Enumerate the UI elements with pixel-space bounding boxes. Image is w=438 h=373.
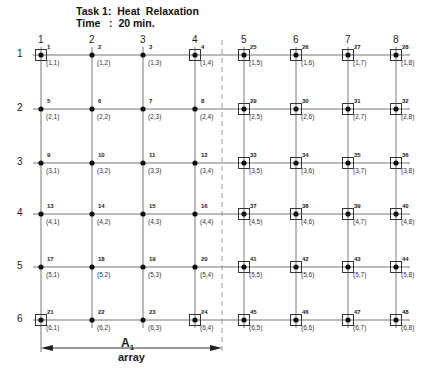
node-coordinate: (6,2)	[97, 324, 110, 331]
node-number: 24	[201, 309, 208, 315]
node-number: 38	[302, 203, 309, 209]
node-coordinate: (3,2)	[97, 167, 110, 174]
node-dot	[393, 160, 398, 165]
row-header: 4	[17, 207, 23, 218]
node-coordinate: (1,8)	[401, 59, 414, 66]
node-dot	[89, 264, 94, 269]
node-coordinate: (6,5)	[249, 324, 262, 331]
column-header: 1	[38, 34, 44, 45]
node-coordinate: (5,5)	[249, 271, 262, 278]
node-number: 29	[250, 98, 257, 104]
node-coordinate: (4,1)	[46, 218, 59, 225]
node-dot	[192, 160, 197, 165]
node-number: 17	[47, 256, 54, 262]
node-dot	[192, 106, 197, 111]
node-number: 39	[354, 203, 361, 209]
node-dot	[241, 211, 246, 216]
node-coordinate: (6,8)	[401, 324, 414, 331]
node-dot	[393, 264, 398, 269]
node-number: 7	[149, 98, 152, 104]
column-header: 3	[140, 34, 146, 45]
node-dot	[345, 52, 350, 57]
node-number: 4	[201, 44, 204, 50]
node-dot	[89, 317, 94, 322]
node-coordinate: (1,5)	[249, 59, 262, 66]
node-number: 45	[250, 309, 257, 315]
node-dot	[89, 211, 94, 216]
node-number: 16	[201, 203, 208, 209]
node-dot	[38, 160, 43, 165]
node-coordinate: (1,2)	[97, 59, 110, 66]
node-dot	[293, 52, 298, 57]
node-coordinate: (5,6)	[301, 271, 314, 278]
node-dot	[89, 52, 94, 57]
node-number: 25	[250, 44, 257, 50]
node-coordinate: (5,2)	[97, 271, 110, 278]
node-number: 1	[47, 44, 50, 50]
node-dot	[140, 317, 145, 322]
node-coordinate: (1,1)	[46, 59, 59, 66]
column-header: 6	[293, 34, 299, 45]
node-dot	[38, 264, 43, 269]
node-dot	[241, 106, 246, 111]
column-header: 8	[393, 34, 399, 45]
node-coordinate: (4,3)	[148, 218, 161, 225]
node-number: 21	[47, 309, 54, 315]
node-number: 3	[149, 44, 152, 50]
node-coordinate: (3,4)	[200, 167, 213, 174]
node-dot	[293, 211, 298, 216]
node-dot	[345, 264, 350, 269]
node-coordinate: (5,4)	[200, 271, 213, 278]
node-dot	[241, 52, 246, 57]
node-number: 26	[302, 44, 309, 50]
node-number: 36	[402, 152, 409, 158]
node-coordinate: (3,7)	[353, 167, 366, 174]
node-coordinate: (3,5)	[249, 167, 262, 174]
node-dot	[38, 317, 43, 322]
node-coordinate: (2,8)	[401, 113, 414, 120]
node-coordinate: (2,5)	[249, 113, 262, 120]
node-number: 6	[98, 98, 101, 104]
node-number: 14	[98, 203, 105, 209]
node-coordinate: (6,3)	[148, 324, 161, 331]
node-coordinate: (5,3)	[148, 271, 161, 278]
column-header: 4	[192, 34, 198, 45]
row-header: 1	[17, 48, 23, 59]
node-dot	[241, 160, 246, 165]
row-header: 2	[17, 102, 23, 113]
node-number: 11	[149, 152, 155, 158]
node-number: 18	[98, 256, 105, 262]
node-dot	[393, 106, 398, 111]
node-number: 30	[302, 98, 309, 104]
node-dot	[140, 52, 145, 57]
node-dot	[345, 160, 350, 165]
node-coordinate: (4,8)	[401, 218, 414, 225]
arrow-right-icon	[210, 345, 222, 351]
column-header: 5	[241, 34, 247, 45]
node-number: 10	[98, 152, 105, 158]
node-coordinate: (6,6)	[301, 324, 314, 331]
array-caption: array	[118, 351, 145, 363]
node-number: 22	[98, 309, 105, 315]
node-dot	[293, 264, 298, 269]
node-number: 8	[201, 98, 204, 104]
node-coordinate: (3,3)	[148, 167, 161, 174]
node-dot	[241, 317, 246, 322]
node-dot	[241, 264, 246, 269]
node-coordinate: (5,1)	[46, 271, 59, 278]
node-number: 31	[354, 98, 361, 104]
node-dot	[393, 52, 398, 57]
node-dot	[345, 106, 350, 111]
grid-diagram	[0, 0, 438, 373]
node-dot	[345, 211, 350, 216]
node-coordinate: (6,1)	[46, 324, 59, 331]
array-label: A1	[121, 336, 134, 352]
node-number: 23	[149, 309, 156, 315]
node-number: 44	[402, 256, 409, 262]
node-coordinate: (3,8)	[401, 167, 414, 174]
node-number: 37	[250, 203, 257, 209]
node-coordinate: (5,8)	[401, 271, 414, 278]
node-number: 35	[354, 152, 361, 158]
node-coordinate: (4,5)	[249, 218, 262, 225]
node-dot	[140, 106, 145, 111]
